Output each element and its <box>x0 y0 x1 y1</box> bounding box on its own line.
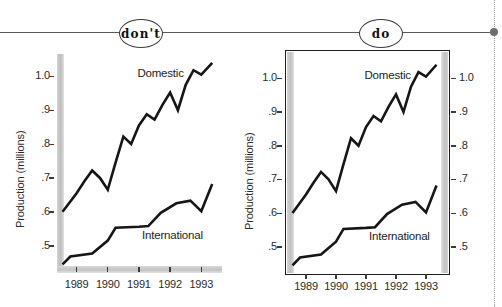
y-tick-label: .6 <box>28 205 50 217</box>
x-tick-label: 1989 <box>289 280 323 292</box>
y-tick-mark <box>277 246 282 247</box>
figure-stage: don't do .5.6.7.8.91.0198919901991199219… <box>0 0 502 307</box>
y-tick-mark <box>277 145 282 146</box>
chart-panel-dont: .5.6.7.8.91.019891990199119921993 Produc… <box>0 50 251 307</box>
series-line-international <box>293 185 437 265</box>
dont-badge-label: don't <box>121 27 161 41</box>
header-rule-left <box>0 32 122 33</box>
x-tick-label: 1990 <box>91 278 125 290</box>
y-tick-label: .5 <box>28 239 50 251</box>
y-tick-label: 1.0 <box>255 71 277 83</box>
y-tick-mark <box>49 144 54 145</box>
do-badge-label: do <box>372 27 391 41</box>
y-tick-mark <box>49 245 54 246</box>
series-line-domestic <box>63 63 213 212</box>
y-tick-mark-right <box>451 213 456 214</box>
y-tick-label: .9 <box>255 105 277 117</box>
x-tick-label: 1991 <box>349 280 383 292</box>
x-tick-mark <box>76 267 77 272</box>
series-label-domestic-do: Domestic <box>365 69 411 81</box>
x-tick-label: 1990 <box>319 280 353 292</box>
x-tick-mark <box>425 274 426 279</box>
x-tick-label: 1992 <box>379 280 413 292</box>
x-tick-mark <box>201 267 202 272</box>
x-tick-label: 1989 <box>60 278 94 290</box>
y-tick-label-right: .6 <box>459 206 483 218</box>
y-tick-mark <box>49 177 54 178</box>
y-tick-mark <box>277 179 282 180</box>
y-tick-mark <box>49 76 54 77</box>
series-line-international <box>63 184 213 264</box>
series-label-international-do: International <box>369 230 430 242</box>
y-tick-mark <box>277 78 282 79</box>
y-tick-mark <box>277 111 282 112</box>
y-tick-mark <box>49 211 54 212</box>
y-tick-mark-right <box>451 111 456 112</box>
y-tick-mark <box>277 213 282 214</box>
series-label-international-dont: International <box>142 229 203 241</box>
do-badge: do <box>359 19 403 48</box>
y-tick-label: 1.0 <box>28 69 50 81</box>
y-tick-label-right: .5 <box>459 240 483 252</box>
x-tick-label: 1993 <box>409 280 443 292</box>
x-tick-mark <box>169 267 170 272</box>
y-tick-label: .5 <box>255 240 277 252</box>
y-tick-label-right: .9 <box>459 105 483 117</box>
y-tick-label: .6 <box>255 206 277 218</box>
y-tick-label-right: 1.0 <box>459 71 483 83</box>
y-tick-label-right: .7 <box>459 172 483 184</box>
y-tick-label: .7 <box>28 171 50 183</box>
y-tick-mark-right <box>451 145 456 146</box>
x-tick-label: 1993 <box>184 278 218 290</box>
cutoff-caption <box>0 300 502 307</box>
x-tick-mark <box>335 274 336 279</box>
dot-marker-icon <box>490 28 498 36</box>
x-tick-mark <box>395 274 396 279</box>
y-axis-title-do: Production (millions) <box>243 132 255 230</box>
header-rule-middle <box>158 32 362 33</box>
y-tick-mark-right <box>451 246 456 247</box>
x-tick-mark <box>365 274 366 279</box>
y-tick-label: .7 <box>255 172 277 184</box>
y-tick-mark-right <box>451 78 456 79</box>
x-tick-mark <box>107 267 108 272</box>
y-tick-mark <box>49 110 54 111</box>
y-axis-title-dont: Production (millions) <box>14 130 26 228</box>
y-tick-label: .9 <box>28 103 50 115</box>
x-tick-label: 1991 <box>122 278 156 290</box>
series-line-domestic <box>293 65 437 213</box>
y-tick-label: .8 <box>255 139 277 151</box>
y-tick-mark-right <box>451 179 456 180</box>
x-tick-mark <box>138 267 139 272</box>
y-tick-label: .8 <box>28 137 50 149</box>
y-tick-label-right: .8 <box>459 139 483 151</box>
chart-panel-do: .5.6.7.8.91.0.5.6.7.8.91.019891990199119… <box>251 50 502 307</box>
header-rule-right <box>398 32 490 33</box>
dont-badge: don't <box>119 19 163 48</box>
x-tick-label: 1992 <box>153 278 187 290</box>
series-label-domestic-dont: Domestic <box>137 67 183 79</box>
x-tick-mark <box>305 274 306 279</box>
